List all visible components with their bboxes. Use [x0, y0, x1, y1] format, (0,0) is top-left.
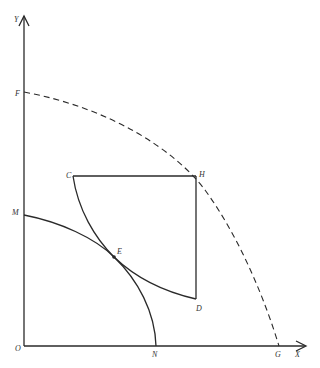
curve-fg-dashed [24, 92, 279, 346]
label-point-g: G [275, 350, 281, 359]
diagram-canvas: Y X O F G M N C H D E [0, 0, 320, 368]
label-origin: O [15, 344, 21, 353]
label-point-n: N [151, 350, 158, 359]
label-point-d: D [195, 304, 202, 313]
label-point-c: C [66, 171, 72, 180]
curve-mn [24, 215, 156, 346]
label-y-axis: Y [14, 15, 20, 24]
point-e-marker [112, 255, 116, 259]
label-point-h: H [198, 170, 206, 179]
label-x-axis: X [294, 350, 301, 359]
label-point-f: F [14, 89, 20, 98]
label-point-m: M [11, 208, 20, 217]
label-point-e: E [116, 247, 122, 256]
